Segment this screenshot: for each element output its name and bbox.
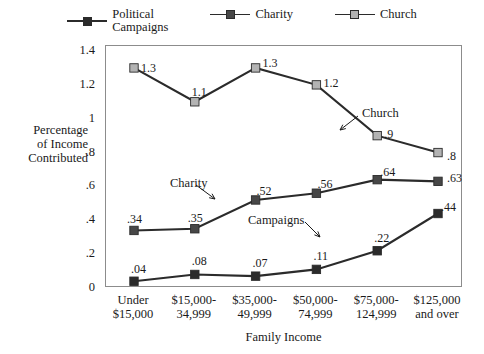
legend-marker-political-campaigns-icon (67, 15, 107, 27)
data-point-label: .07 (253, 256, 268, 271)
data-point-marker[interactable] (434, 148, 442, 156)
data-point-marker[interactable] (434, 177, 442, 185)
legend-label-political-campaigns: Political Campaigns (112, 8, 168, 35)
data-point-label: .56 (317, 177, 332, 192)
legend-item-church[interactable]: Church (335, 8, 417, 21)
chart-figure: Political Campaigns Charity Church Perce… (0, 0, 484, 354)
data-point-marker[interactable] (373, 131, 381, 139)
data-point-marker[interactable] (312, 265, 320, 273)
data-point-label: .22 (374, 231, 389, 246)
data-point-marker[interactable] (191, 270, 199, 278)
data-point-label: .63 (447, 171, 462, 186)
data-point-label: .64 (380, 165, 395, 180)
data-point-marker[interactable] (373, 247, 381, 255)
y-axis-title-line: Contributed (2, 152, 88, 166)
data-point-marker[interactable] (312, 81, 320, 89)
x-axis-tick-5: $125,000and over (389, 293, 484, 321)
data-point-marker[interactable] (191, 225, 199, 233)
legend-marker-charity-icon (210, 9, 250, 21)
data-point-label: .8 (447, 149, 456, 164)
data-point-marker[interactable] (130, 64, 138, 72)
data-point-label: 1.1 (192, 85, 207, 100)
data-point-label: .9 (384, 127, 393, 142)
data-point-marker[interactable] (130, 226, 138, 234)
data-point-label: .44 (441, 200, 456, 215)
annotation-label-charity: Charity (170, 176, 208, 191)
data-point-label: .11 (313, 249, 328, 264)
data-point-marker[interactable] (251, 64, 259, 72)
annotation-label-campaigns: Campaigns (248, 213, 304, 228)
data-point-marker[interactable] (130, 277, 138, 285)
data-point-label: .08 (192, 254, 207, 269)
chart-legend: Political Campaigns Charity Church (0, 8, 484, 35)
legend-item-charity[interactable]: Charity (210, 8, 293, 21)
x-axis-title: Family Income (105, 330, 462, 345)
data-point-label: 1.2 (323, 76, 338, 91)
y-axis-title-line: Percentage (2, 124, 88, 138)
data-point-label: .04 (131, 262, 146, 277)
data-point-label: .34 (127, 212, 142, 227)
legend-label-charity: Charity (255, 8, 293, 21)
data-point-label: .52 (257, 184, 272, 199)
data-point-label: 1.3 (141, 61, 156, 76)
y-axis-title-line: of Income (2, 138, 88, 152)
annotation-label-church: Church (362, 106, 399, 121)
legend-marker-church-icon (335, 9, 375, 21)
data-point-marker[interactable] (251, 272, 259, 280)
plot-area (105, 45, 462, 287)
legend-item-political-campaigns[interactable]: Political Campaigns (67, 8, 168, 35)
plot-series-canvas (106, 46, 463, 288)
data-point-label: 1.3 (263, 56, 278, 71)
legend-label-church: Church (380, 8, 417, 21)
y-axis-title: Percentageof IncomeContributed (2, 124, 88, 165)
data-point-label: .35 (188, 211, 203, 226)
